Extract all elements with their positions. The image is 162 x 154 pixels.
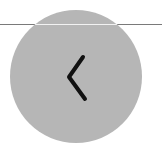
chevron-left-icon: [10, 10, 142, 143]
back-button[interactable]: [10, 10, 142, 143]
